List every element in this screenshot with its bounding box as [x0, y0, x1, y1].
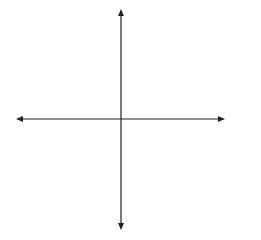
- axes: [16, 9, 225, 230]
- coordinate-plane: [0, 0, 261, 240]
- x-axis-right-arrow-icon: [218, 116, 225, 122]
- y-axis-up-arrow-icon: [118, 9, 124, 16]
- x-axis-left-arrow-icon: [16, 116, 23, 122]
- y-axis-down-arrow-icon: [118, 223, 124, 230]
